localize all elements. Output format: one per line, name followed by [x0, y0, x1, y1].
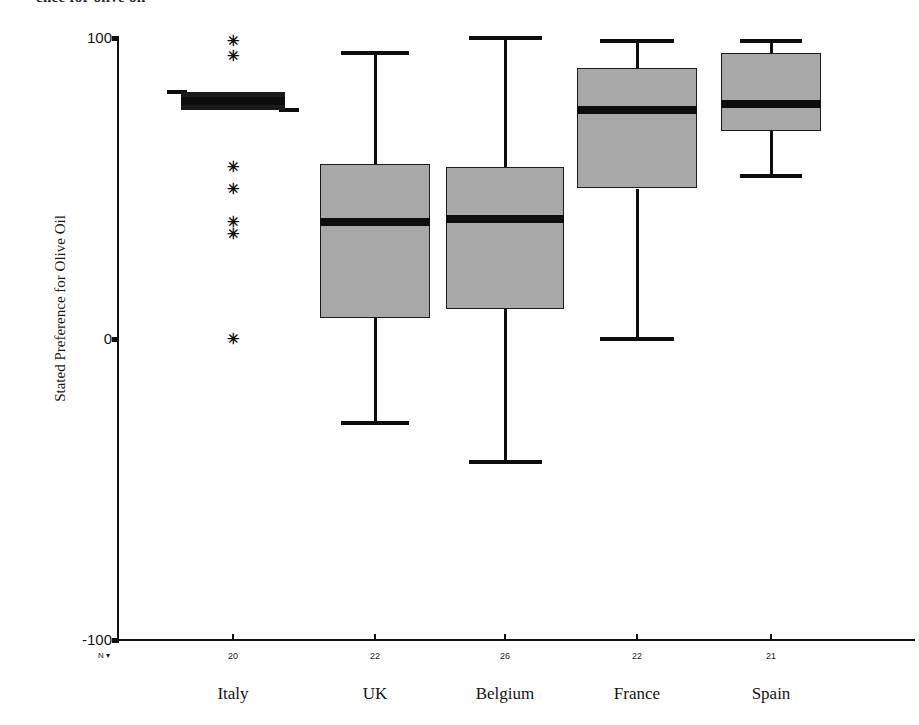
- y-tick-mark: [112, 337, 119, 342]
- y-axis-title: Stated Preference for Olive Oil: [52, 149, 69, 469]
- y-tick-mark: [112, 36, 119, 41]
- x-tick-mark-uk: [374, 634, 376, 641]
- group-uk-upper-whisker-cap: [341, 51, 409, 55]
- group-belgium-lower-whisker-cap: [469, 460, 542, 464]
- group-uk-upper-whisker: [374, 53, 377, 164]
- y-tick-label: 0: [48, 331, 112, 346]
- group-france-lower-whisker-cap: [600, 337, 674, 341]
- box-plot-figure: ence for olive oil Stated Preference for…: [0, 0, 919, 725]
- group-france-box: [577, 68, 697, 188]
- y-tick-mark: [112, 638, 119, 643]
- group-italy-outlier-5: [227, 227, 240, 241]
- x-tick-mark-spain: [770, 634, 772, 641]
- group-italy-outlier-0: [227, 34, 240, 48]
- group-spain-box: [721, 53, 821, 131]
- x-tick-mark-belgium: [504, 634, 506, 641]
- y-tick-0: 0: [0, 331, 112, 347]
- group-france-upper-whisker-cap: [600, 39, 674, 43]
- group-france-median: [577, 106, 697, 114]
- n-count-spain: 21: [741, 651, 801, 661]
- group-belgium-median: [446, 215, 564, 223]
- group-italy-outlier-2: [227, 160, 240, 174]
- group-spain-median: [721, 100, 821, 108]
- n-count-uk: 22: [345, 651, 405, 661]
- n-count-italy: 20: [203, 651, 263, 661]
- group-belgium-upper-whisker: [504, 38, 507, 167]
- n-count-belgium: 26: [475, 651, 535, 661]
- x-tick-mark-italy: [232, 634, 234, 641]
- group-uk-lower-whisker-cap: [341, 421, 409, 425]
- category-label-italy: Italy: [153, 684, 313, 704]
- group-uk-box: [320, 164, 430, 318]
- group-belgium-box: [446, 167, 564, 308]
- n-count-france: 22: [607, 651, 667, 661]
- y-tick-label: -100: [48, 632, 112, 647]
- x-tick-mark-france: [636, 634, 638, 641]
- group-spain-lower-whisker: [770, 131, 773, 176]
- group-spain-upper-whisker-cap: [740, 39, 802, 43]
- clipped-caption: ence for olive oil: [36, 0, 456, 3]
- group-italy-outlier-6: [227, 332, 240, 346]
- group-uk-lower-whisker: [374, 318, 377, 423]
- x-axis-line: [117, 639, 915, 641]
- y-tick--100: -100: [0, 632, 112, 648]
- group-italy-median: [181, 97, 285, 105]
- group-france-lower-whisker: [636, 189, 639, 340]
- group-italy-outlier-3: [227, 182, 240, 196]
- group-belgium-lower-whisker: [504, 309, 507, 463]
- y-tick-100: 100: [0, 30, 112, 46]
- category-label-spain: Spain: [691, 684, 851, 704]
- group-uk-median: [320, 218, 430, 226]
- group-spain-lower-whisker-cap: [740, 174, 802, 178]
- y-tick-label: 100: [48, 30, 112, 45]
- group-belgium-upper-whisker-cap: [469, 36, 542, 40]
- group-italy-outlier-1: [227, 49, 240, 63]
- n-legend-label: N ▾: [98, 651, 110, 660]
- group-france-upper-whisker: [636, 41, 639, 68]
